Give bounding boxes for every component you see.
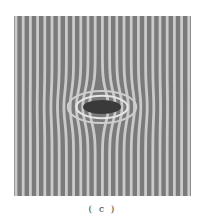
fringe-image: [14, 16, 191, 196]
fringe-pattern-figure: [14, 16, 191, 196]
panel-caption: ( c ): [0, 204, 205, 214]
defect-ellipse: [83, 100, 121, 114]
